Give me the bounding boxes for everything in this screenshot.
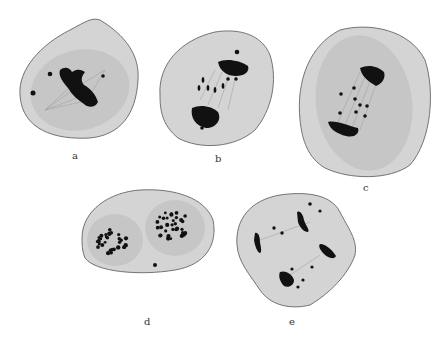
chromosome-dot (118, 237, 122, 241)
figure-plate (0, 0, 438, 339)
cell-c-chromosome (363, 114, 367, 118)
cell-d-chromosome (153, 263, 157, 267)
cell-b-chromosome (200, 126, 204, 130)
cell-a-chromosome (101, 74, 105, 78)
cell-b-membrane (160, 31, 274, 146)
panel-label-e: e (289, 316, 295, 327)
chromosome-dot (108, 228, 112, 232)
cell-d-nucleus-left (87, 214, 143, 266)
cell-e-chromosome (318, 209, 321, 212)
chromosome-dot (170, 212, 173, 215)
panel-label-b: b (215, 153, 221, 164)
chromosome-dot (96, 245, 100, 249)
chromosome-dot (123, 246, 126, 249)
chromosome-dot (162, 217, 166, 221)
chromosome-dot (110, 248, 114, 252)
chromosome-dot (156, 220, 160, 224)
chromosome-dot (124, 236, 128, 240)
chromosome-dot (175, 227, 179, 231)
panel-label-d: d (144, 316, 150, 327)
cell-c-chromosome (365, 104, 369, 108)
chromosome-dot (175, 216, 178, 219)
cell-b-chromosome (222, 83, 225, 89)
chromosome-dot (100, 243, 104, 247)
chromosome-dot (159, 225, 163, 229)
cell-b-chromosome (234, 77, 238, 81)
panel-label-c: c (363, 182, 369, 193)
chromosome-dot (171, 223, 174, 226)
cell-e (237, 194, 356, 307)
chromosome-dot (171, 228, 174, 231)
cell-a-chromosome (31, 91, 36, 96)
cell-b (160, 31, 274, 146)
chromosome-dot (180, 228, 183, 231)
chromosome-dot (165, 223, 169, 227)
chromosome-dot (158, 215, 161, 218)
cell-e-membrane (237, 194, 356, 307)
cell-c-chromosome (354, 110, 358, 114)
cell-c-chromosome (338, 111, 342, 115)
chromosome-dot (164, 229, 167, 232)
cell-c-chromosome (352, 86, 356, 90)
cell-c-chromosome (353, 97, 357, 101)
chromosome-dot (99, 234, 103, 238)
chromosome-dot (116, 245, 120, 249)
chromosome-dot (158, 234, 162, 238)
cell-e-chromosome (308, 202, 312, 206)
cell-e-chromosome (290, 267, 293, 270)
cell-a-chromosome (48, 72, 53, 77)
cell-b-chromosome (207, 85, 210, 91)
chromosome-dot (175, 211, 179, 215)
chromosome-dot (117, 233, 120, 236)
chromosome-dot (104, 241, 107, 244)
chromosome-dot (183, 214, 187, 218)
chromosome-dot (166, 217, 169, 220)
chromosome-dot (166, 234, 170, 238)
cell-b-chromosome (214, 87, 217, 93)
cell-e-chromosome (301, 278, 304, 281)
cell-d (82, 190, 214, 273)
cell-b-chromosome (202, 77, 205, 83)
cell-e-chromosome (280, 231, 283, 234)
cell-c-chromosome (339, 92, 343, 96)
chromosome-dot (181, 220, 185, 224)
cell-c-chromosome (358, 103, 362, 107)
chromosome-dot (164, 212, 167, 215)
chromosome-dot (106, 251, 110, 255)
cell-d-nucleus-right (145, 200, 205, 256)
chromosome-dot (98, 242, 101, 245)
chromosome-dot (156, 226, 160, 230)
cell-e-chromosome (272, 226, 275, 229)
cell-a (20, 19, 139, 141)
cell-b-chromosome (198, 85, 201, 91)
cell-c (299, 27, 430, 177)
chromosome-dot (107, 232, 111, 236)
chromosome-dot (172, 219, 175, 222)
chromosome-dot (174, 222, 177, 225)
chromosome-dot (169, 237, 172, 240)
cell-e-chromosome (296, 285, 299, 288)
cell-b-chromosome (226, 77, 230, 81)
chromosome-dot (105, 235, 108, 238)
panel-label-a: a (72, 150, 78, 161)
cell-e-chromosome (310, 265, 313, 268)
chromosome-dot (181, 234, 184, 237)
chromosome-dot (118, 241, 121, 244)
cell-b-chromosome (235, 50, 240, 55)
